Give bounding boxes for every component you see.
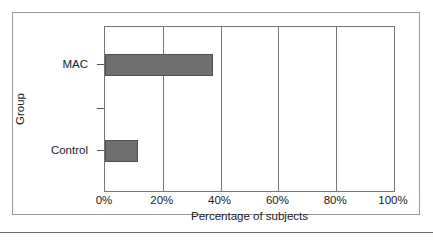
gridline-80 (336, 27, 337, 191)
xtick-label-80: 80% (324, 194, 347, 207)
gridline-60 (278, 27, 279, 191)
bottom-separator-rule (0, 232, 433, 233)
x-axis-title: Percentage of subjects (104, 210, 395, 223)
gridline-40 (221, 27, 222, 191)
figure-root: MAC Control 0% 20% 40% 60% 80% 100% Perc… (0, 0, 433, 245)
ytick-mac (97, 64, 104, 65)
plot-area (104, 26, 395, 192)
bar-control (105, 140, 138, 162)
xtick-label-100: 100% (378, 194, 407, 207)
y-axis-title: Group (14, 93, 27, 125)
xtick-label-60: 60% (266, 194, 289, 207)
gridline-20 (163, 27, 164, 191)
xtick-label-40: 40% (208, 194, 231, 207)
xtick-label-20: 20% (150, 194, 173, 207)
ycat-label-mac: MAC (62, 58, 88, 70)
bar-mac (105, 54, 213, 76)
ytick-control (97, 150, 104, 151)
ycat-label-control: Control (51, 144, 88, 156)
xtick-label-0: 0% (96, 194, 113, 207)
ytick-middle (97, 108, 104, 109)
